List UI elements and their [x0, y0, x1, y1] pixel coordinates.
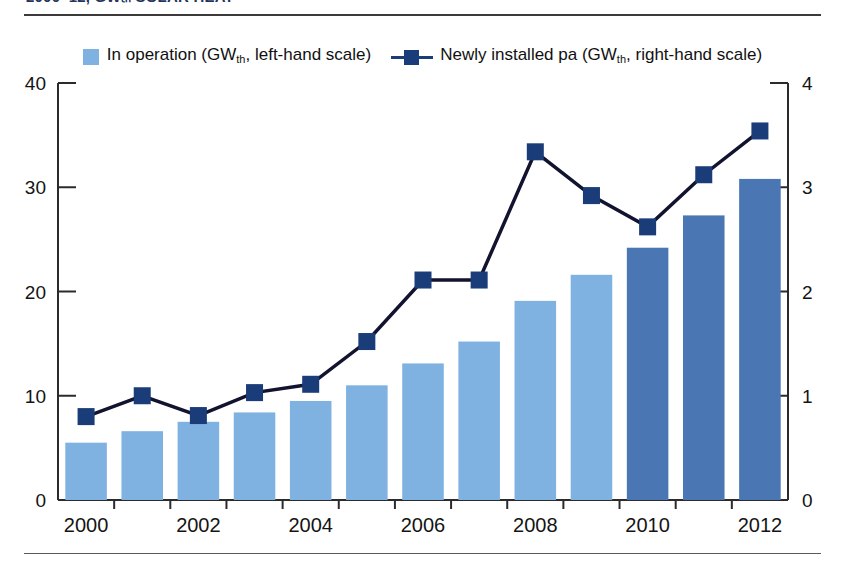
right-axis-tick-label: 4 [802, 73, 813, 94]
chart-svg: 0102030400123420002002200420062008201020… [0, 0, 845, 568]
bar-2001 [121, 431, 163, 500]
line-marker-2006 [415, 272, 432, 289]
line-marker-2009 [583, 187, 600, 204]
line-marker-2007 [471, 272, 488, 289]
bar-2008 [515, 301, 557, 500]
bar-2006 [402, 363, 444, 500]
line-marker-2011 [695, 166, 712, 183]
x-axis-tick-label-2006: 2006 [401, 514, 446, 536]
right-axis-tick-label: 2 [802, 282, 813, 303]
bar-2000 [65, 443, 107, 500]
line-marker-2005 [358, 333, 375, 350]
line-marker-2002 [190, 407, 207, 424]
line-marker-2000 [78, 408, 95, 425]
x-axis-tick-label-2002: 2002 [176, 514, 221, 536]
left-axis-tick-label: 30 [25, 177, 46, 198]
x-axis-tick-label-2004: 2004 [288, 514, 333, 536]
line-marker-2004 [302, 376, 319, 393]
left-axis-tick-label: 10 [25, 386, 46, 407]
right-axis-tick-label: 3 [802, 177, 813, 198]
line-marker-2008 [527, 143, 544, 160]
line-marker-2010 [639, 218, 656, 235]
line-marker-2003 [246, 384, 263, 401]
bar-2004 [290, 401, 332, 500]
line-marker-2001 [134, 387, 151, 404]
x-axis-tick-label-2000: 2000 [64, 514, 109, 536]
bar-2010 [627, 248, 669, 500]
bar-2009 [571, 275, 613, 500]
x-axis-tick-label-2010: 2010 [625, 514, 670, 536]
left-axis-tick-label: 0 [35, 490, 46, 511]
bar-2011 [683, 215, 725, 500]
bar-2003 [234, 412, 276, 500]
figure: 2000–12, GWₜₕ SOLAR HEAT In operation (G… [0, 0, 845, 568]
line-marker-2012 [751, 122, 768, 139]
bar-2007 [458, 342, 500, 500]
bar-2012 [739, 179, 781, 500]
bar-2005 [346, 385, 388, 500]
x-axis-tick-label-2008: 2008 [513, 514, 558, 536]
right-axis-tick-label: 0 [802, 490, 813, 511]
right-axis-tick-label: 1 [802, 386, 813, 407]
left-axis-tick-label: 20 [25, 282, 46, 303]
left-axis-tick-label: 40 [25, 73, 46, 94]
bar-2002 [178, 422, 220, 500]
x-axis-tick-label-2012: 2012 [738, 514, 783, 536]
plot-area: 0102030400123420002002200420062008201020… [0, 0, 845, 568]
